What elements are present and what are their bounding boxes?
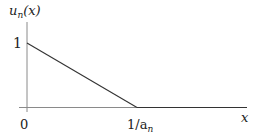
x-axis-label: x [241,111,248,124]
x-tick-one-over-an-sub: n [147,124,153,134]
x-tick-one-over-an-main: 1/a [127,117,147,132]
y-tick-one: 1 [13,36,22,50]
x-tick-one-over-an: 1/an [127,118,153,131]
function-line-descending [27,43,137,108]
y-axis-label: un(x) [9,4,41,17]
x-tick-zero: 0 [20,118,28,131]
y-axis-label-arg: (x) [23,3,40,18]
y-axis-label-sub: n [17,10,23,20]
